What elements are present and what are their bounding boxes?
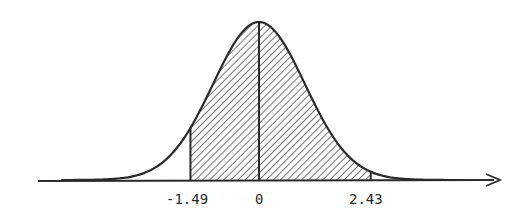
label-left-bound: -1.49: [166, 191, 208, 207]
shaded-area: [190, 22, 370, 180]
normal-curve-diagram: -1.49 0 2.43: [0, 0, 527, 217]
label-right-bound: 2.43: [349, 191, 383, 207]
x-axis: [38, 180, 494, 181]
label-zero: 0: [255, 191, 263, 207]
